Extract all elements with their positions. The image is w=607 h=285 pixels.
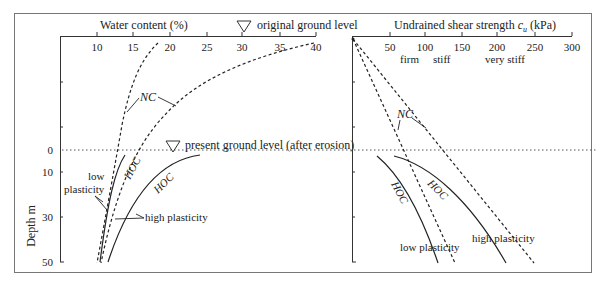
y-tick-10: 10 <box>42 166 54 178</box>
nc-arrow-low <box>127 98 139 112</box>
hoc-curve-high-plasticity <box>108 155 200 262</box>
low-plasticity-arrows <box>95 196 107 210</box>
water-content-ticks <box>97 32 316 36</box>
y-tick-50: 50 <box>42 256 54 268</box>
nc-line-high-plasticity <box>353 39 534 263</box>
hoc-label-high-right: HOC <box>425 176 451 202</box>
right-panel: Undrained shear strength cu (kPa) 50 100… <box>352 18 581 263</box>
original-ground-triangle-icon <box>237 21 251 32</box>
low-plasticity-label-right: low plasticity <box>400 241 460 253</box>
present-ground-label: present ground level (after erosion) <box>185 138 354 152</box>
consistency-firm: firm <box>400 53 419 65</box>
diagram-canvas: Water content (%) original ground level … <box>0 0 607 285</box>
cu-tick-300: 300 <box>564 41 581 53</box>
cu-tick-150: 150 <box>454 41 471 53</box>
hoc-label-low-right: HOC <box>389 178 411 206</box>
hoc-label-high-left: HOC <box>150 170 176 196</box>
consistency-very-stiff: very stiff <box>485 53 525 65</box>
nc-arrow-high <box>158 97 176 106</box>
high-plasticity-arrows <box>115 214 144 219</box>
original-ground-label: original ground level <box>257 18 358 32</box>
y-tick-0: 0 <box>48 144 54 156</box>
hoc-label-low-left: HOC <box>121 154 143 182</box>
x-tick-15: 15 <box>128 41 140 53</box>
x-tick-25: 25 <box>202 41 214 53</box>
nc-curve-high-plasticity <box>101 43 314 263</box>
low-plasticity-label-line2: plasticity <box>64 183 105 195</box>
cu-tick-100: 100 <box>417 41 434 53</box>
shear-strength-axis-title: Undrained shear strength cu (kPa) <box>394 18 556 34</box>
x-tick-30: 30 <box>237 41 249 53</box>
cu-tick-200: 200 <box>489 41 506 53</box>
x-tick-10: 10 <box>92 41 104 53</box>
present-ground-triangle-icon <box>166 141 180 152</box>
nc-label-left: NC <box>139 90 157 104</box>
water-content-axis-title: Water content (%) <box>100 18 188 32</box>
nc-arrow-low-right <box>398 120 400 130</box>
low-plasticity-label-line1: low <box>88 170 105 182</box>
high-plasticity-label-right: high plasticity <box>472 232 535 244</box>
x-tick-20: 20 <box>165 41 177 53</box>
shear-strength-ticks <box>390 32 572 36</box>
cu-tick-250: 250 <box>527 41 544 53</box>
y-tick-30: 30 <box>42 211 54 223</box>
nc-curve-low-plasticity <box>97 43 158 263</box>
depth-axis-title: Depth m <box>24 205 38 247</box>
nc-label-right: NC <box>396 107 414 121</box>
nc-arrow-high-right <box>412 118 426 128</box>
high-plasticity-label: high plasticity <box>145 211 208 223</box>
consistency-stiff: stiff <box>433 53 451 65</box>
cu-tick-50: 50 <box>385 41 397 53</box>
nc-line-low-plasticity <box>353 39 455 263</box>
